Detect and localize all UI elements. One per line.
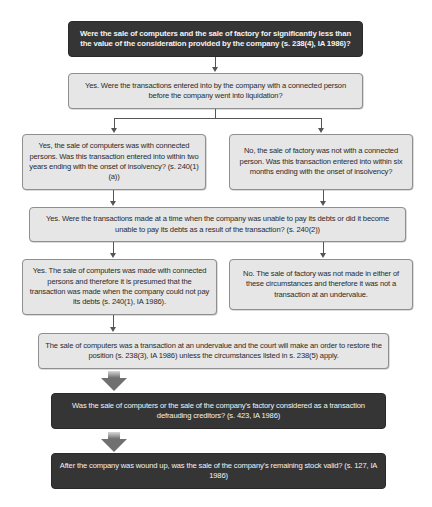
arrow-down-icon [110, 201, 116, 206]
question-remaining-stock-valid-text: After the company was wound up, was the … [58, 461, 379, 482]
arrow-down-icon [212, 67, 218, 72]
question-factory-six-months: No, the sale of factory was not with a c… [229, 134, 413, 190]
question-computers-two-years-text: Yes, the sale of computers was with conn… [29, 141, 199, 183]
question-unable-to-pay-debts-text: Yes. Were the transactions made at a tim… [36, 214, 399, 235]
arrow-down-icon [318, 128, 324, 133]
conclusion-undervalue-order: The sale of computers was a transaction … [38, 333, 389, 369]
question-computers-two-years: Yes, the sale of computers was with conn… [22, 134, 206, 190]
answer-computers-presumed-text: Yes. The sale of computers was made with… [29, 266, 210, 308]
question-connected-person: Yes. Were the transactions entered into … [68, 73, 363, 109]
question-defrauding-creditors-text: Was the sale of computers or the sale of… [58, 401, 379, 422]
question-defrauding-creditors: Was the sale of computers or the sale of… [51, 393, 386, 429]
answer-computers-presumed: Yes. The sale of computers was made with… [22, 259, 217, 315]
arrow-down-icon [320, 201, 326, 206]
arrow-down-icon [320, 253, 326, 258]
question-factory-six-months-text: No, the sale of factory was not with a c… [236, 146, 406, 177]
question-undervalue-text: Were the sale of computers and the sale … [75, 29, 356, 50]
arrow-down-icon [110, 327, 116, 332]
big-arrow-down-icon [99, 432, 129, 452]
question-remaining-stock-valid: After the company was wound up, was the … [51, 453, 386, 489]
arrow-down-icon [110, 253, 116, 258]
question-connected-person-text: Yes. Were the transactions entered into … [75, 81, 356, 102]
answer-factory-not-undervalue: No. The sale of factory was not made in … [229, 259, 413, 310]
answer-factory-not-undervalue-text: No. The sale of factory was not made in … [236, 269, 406, 300]
arrow-down-icon [111, 128, 117, 133]
connector-line [114, 118, 322, 119]
question-unable-to-pay-debts: Yes. Were the transactions made at a tim… [29, 207, 406, 242]
conclusion-undervalue-order-text: The sale of computers was a transaction … [45, 341, 382, 362]
question-undervalue: Were the sale of computers and the sale … [68, 21, 363, 57]
connector-line [215, 109, 216, 118]
big-arrow-down-icon [99, 371, 129, 391]
